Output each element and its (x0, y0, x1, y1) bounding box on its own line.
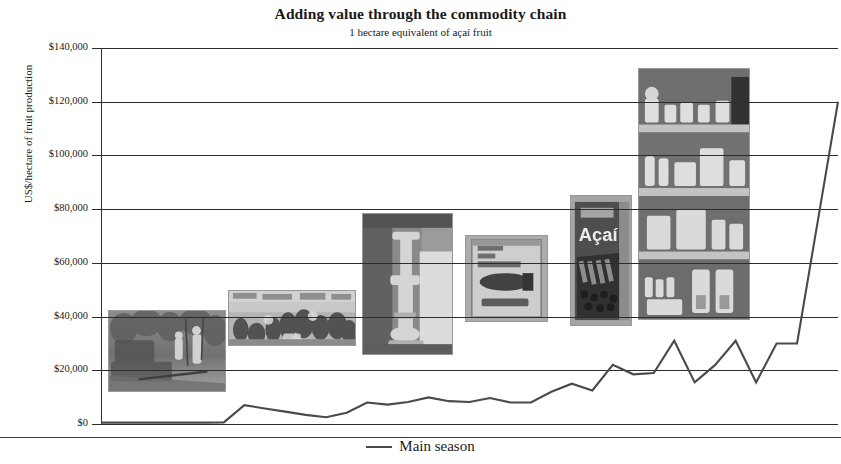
chart-title: Adding value through the commodity chain (0, 5, 841, 23)
retail-shelf-photo (638, 68, 750, 320)
y-tick-label: $60,000 (0, 256, 88, 267)
y-tick-label: $80,000 (0, 202, 88, 213)
y-tick-mark (92, 102, 101, 103)
gridline (101, 155, 838, 156)
market-photo (228, 290, 356, 346)
y-tick-mark (92, 48, 101, 49)
gridline (101, 424, 838, 425)
y-tick-label: $120,000 (0, 95, 88, 106)
y-tick-mark (92, 370, 101, 371)
y-tick-mark (92, 424, 101, 425)
processing-photo (362, 213, 453, 355)
y-tick-label: $100,000 (0, 148, 88, 159)
pulp-package-photo (465, 235, 548, 322)
legend-line-swatch (366, 446, 392, 448)
legend-label-main-season: Main season (399, 438, 474, 455)
y-tick-label: $20,000 (0, 363, 88, 374)
gridline (101, 370, 838, 371)
y-tick-mark (92, 317, 101, 318)
plot-area: Açaí (101, 48, 838, 424)
legend: Main season (0, 438, 841, 455)
gridline (101, 209, 838, 210)
acai-product-photo: Açaí (570, 195, 632, 326)
gridline (101, 102, 838, 103)
svg-text:Açaí: Açaí (579, 224, 619, 245)
y-tick-mark (92, 263, 101, 264)
y-tick-mark (92, 155, 101, 156)
y-tick-label: $0 (0, 417, 88, 428)
gridline (101, 48, 838, 49)
gridline (101, 317, 838, 318)
y-tick-mark (92, 209, 101, 210)
gridline (101, 263, 838, 264)
harvest-photo (108, 310, 226, 392)
y-tick-label: $140,000 (0, 41, 88, 52)
y-axis-ticks: $140,000$120,000$100,000$80,000$60,000$4… (0, 0, 101, 464)
y-tick-label: $40,000 (0, 310, 88, 321)
chart-subtitle: 1 hectare equivalent of açaí fruit (0, 26, 841, 38)
